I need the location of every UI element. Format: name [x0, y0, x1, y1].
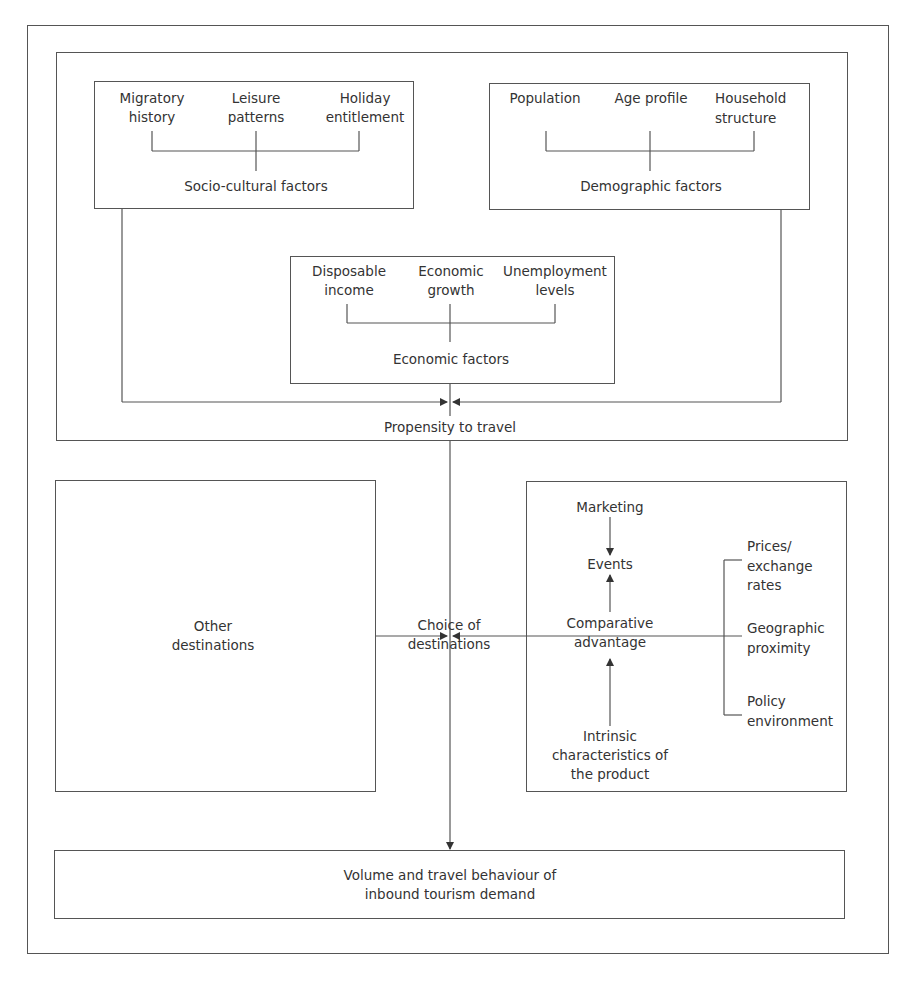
inbound-demand-label: Volume and travel behaviour ofinbound to…: [344, 866, 557, 904]
policy-environment-label: Policyenvironment: [747, 692, 833, 731]
age-profile-label: Age profile: [614, 89, 687, 108]
disposable-income-label: Disposableincome: [312, 262, 386, 300]
economic-growth-label: Economicgrowth: [418, 262, 483, 300]
holiday-entitlement-label: Holidayentitlement: [326, 89, 405, 127]
population-label: Population: [510, 89, 581, 108]
events-label: Events: [587, 555, 633, 574]
tourism-demand-diagram: Migratoryhistory Leisurepatterns Holiday…: [0, 0, 915, 981]
comparative-advantage-label: Comparativeadvantage: [567, 614, 654, 652]
propensity-to-travel-label: Propensity to travel: [384, 418, 516, 437]
migratory-history-label: Migratoryhistory: [120, 89, 185, 127]
geographic-proximity-label: Geographicproximity: [747, 619, 825, 658]
choice-of-destinations-label: Choice ofdestinations: [408, 616, 491, 654]
intrinsic-characteristics-label: Intrinsiccharacteristics ofthe product: [552, 727, 668, 784]
prices-exchange-rates-label: Prices/exchangerates: [747, 537, 813, 596]
other-destinations-label: Otherdestinations: [172, 617, 255, 655]
demographic-factors-label: Demographic factors: [580, 177, 722, 196]
socio-cultural-factors-label: Socio-cultural factors: [184, 177, 327, 196]
economic-factors-label: Economic factors: [393, 350, 509, 369]
leisure-patterns-label: Leisurepatterns: [228, 89, 285, 127]
marketing-label: Marketing: [576, 498, 643, 517]
household-structure-label: Householdstructure: [715, 89, 786, 128]
unemployment-levels-label: Unemploymentlevels: [503, 262, 607, 300]
